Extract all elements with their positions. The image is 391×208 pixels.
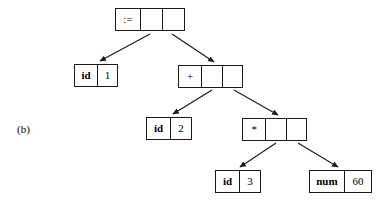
num-60-node: num 60: [309, 170, 372, 193]
edge-assign-to-id1: [100, 34, 150, 61]
figure-root: := id 1 + id 2 * id 3 num 60 (b): [0, 0, 391, 208]
plus-node-left-pointer: [201, 66, 221, 87]
plus-node: +: [178, 65, 243, 88]
edge-star-to-id3: [240, 143, 276, 167]
edge-assign-to-plus: [172, 34, 214, 62]
assignment-node-operator: :=: [116, 9, 140, 30]
id-2-node-label: id: [147, 118, 170, 139]
id-3-node-label: id: [216, 171, 239, 192]
multiply-node-right-pointer: [286, 119, 306, 140]
num-60-node-label: num: [310, 171, 344, 192]
id-2-node-value: 2: [170, 118, 191, 139]
id-1-node: id 1: [74, 64, 118, 87]
id-1-node-label: id: [75, 65, 97, 86]
plus-node-operator: +: [179, 66, 201, 87]
id-3-node: id 3: [215, 170, 261, 193]
multiply-node-left-pointer: [265, 119, 285, 140]
plus-node-right-pointer: [222, 66, 242, 87]
id-2-node: id 2: [146, 117, 192, 140]
edge-plus-to-id2: [173, 90, 212, 114]
assignment-node-left-pointer: [140, 9, 162, 30]
id-3-node-value: 3: [239, 171, 260, 192]
id-1-node-value: 1: [97, 65, 117, 86]
multiply-node-operator: *: [243, 119, 265, 140]
edge-plus-to-star: [234, 90, 278, 115]
edge-star-to-num60: [298, 143, 338, 167]
assignment-node-right-pointer: [162, 9, 184, 30]
assignment-node: :=: [115, 8, 185, 31]
figure-caption: (b): [17, 123, 30, 135]
num-60-node-value: 60: [344, 171, 371, 192]
multiply-node: *: [242, 118, 307, 141]
